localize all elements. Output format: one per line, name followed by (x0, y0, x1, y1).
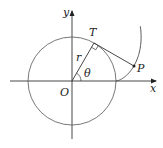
origin-label: O (60, 86, 69, 99)
t-label: T (89, 26, 98, 39)
tangent-line (94, 43, 134, 66)
p-label: P (136, 62, 145, 75)
involute-diagram: y x O T P r θ (0, 0, 163, 148)
point-p-dot (133, 65, 136, 68)
x-axis-label: x (150, 82, 157, 95)
theta-arc (77, 73, 82, 81)
y-axis-label: y (62, 6, 70, 19)
theta-label: θ (84, 67, 91, 80)
r-label: r (76, 51, 82, 64)
